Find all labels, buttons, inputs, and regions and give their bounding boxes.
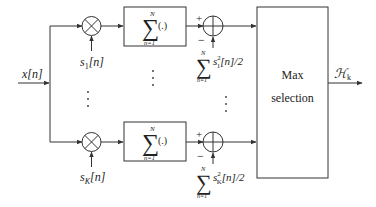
sum-icon: ∑ [142,130,159,157]
minus-sign: − [198,33,205,47]
svg-text:n=1: n=1 [197,193,207,199]
svg-text:n=1: n=1 [197,77,207,83]
plus-sign: + [196,128,202,140]
multiplier-icon [82,133,101,152]
input-label: x[n] [21,67,43,81]
block-diagram: x[n] s1[n] N ∑ (.) n=1 + − [0,0,376,207]
energy-term: N ∑ n=1 s21[n]/2 [196,49,243,83]
minus-sign: − [197,149,204,163]
multiplier-icon [82,17,101,36]
max-selection-block: Max selection [257,7,328,178]
reference-signal-label: s1[n] [80,55,104,71]
output-signal: ℋk [328,66,362,83]
summation-block: N ∑ (.) n=1 [124,122,186,161]
svg-text:n=1: n=1 [144,154,155,161]
max-selection-line1: Max [282,68,304,82]
svg-text:∑: ∑ [196,54,212,79]
svg-text:∑: ∑ [196,170,212,195]
reference-signal-label: sK[n] [80,170,106,186]
summation-block: N ∑ (.) n=1 [124,7,186,46]
branch-K: sK[n] N ∑ (.) n=1 + − N ∑ n=1 s2K[n]/2 [50,122,256,199]
output-label: ℋk [334,66,351,82]
input-signal: x[n] [18,67,49,83]
svg-text:(.): (.) [158,135,167,147]
energy-term: N ∑ n=1 s2K[n]/2 [196,165,245,199]
adder-icon [203,132,223,152]
svg-text:n=1: n=1 [144,39,155,46]
sum-icon: ∑ [142,15,159,42]
max-selection-line2: selection [271,91,314,105]
plus-sign: + [196,12,202,24]
svg-text:(.): (.) [158,20,167,32]
svg-text:s21[n]/2: s21[n]/2 [213,54,243,70]
svg-text:s2K[n]/2: s2K[n]/2 [213,170,245,186]
adder-icon [203,16,223,36]
